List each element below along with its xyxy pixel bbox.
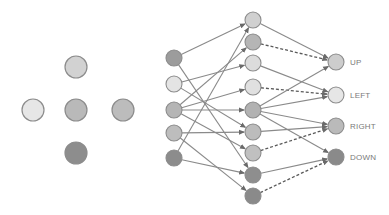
hidden-node — [245, 167, 261, 183]
hidden-node — [245, 79, 261, 95]
input-hidden-edge — [181, 88, 245, 127]
hidden-output-edge — [260, 24, 328, 58]
hidden-output-edge — [261, 97, 327, 109]
direction-cluster — [22, 56, 134, 164]
hidden-node — [245, 102, 261, 118]
cluster-node-c-top — [65, 56, 87, 78]
dashed-hidden-output-edge — [261, 44, 327, 60]
input-hidden-edge — [182, 160, 244, 173]
input-node — [166, 76, 182, 92]
hidden-node — [245, 145, 261, 161]
input-hidden-edge — [181, 114, 245, 149]
hidden-output-edge — [260, 66, 327, 92]
input-node — [166, 150, 182, 166]
hidden-output-edge — [261, 112, 327, 125]
network-nodes — [166, 12, 344, 204]
hidden-node — [245, 124, 261, 140]
hidden-node — [245, 12, 261, 28]
input-node — [166, 102, 182, 118]
dashed-hidden-output-edge — [261, 88, 327, 94]
hidden-node — [245, 188, 261, 204]
input-node — [166, 50, 182, 66]
input-hidden-edge — [182, 132, 244, 133]
cluster-node-c-center — [65, 99, 87, 121]
output-label-left: LEFT — [350, 91, 370, 100]
output-node — [328, 87, 344, 103]
cluster-node-c-left — [22, 99, 44, 121]
cluster-node-c-right — [112, 99, 134, 121]
hidden-node — [245, 55, 261, 71]
output-node — [328, 149, 344, 165]
output-label-right: RIGHT — [350, 122, 376, 131]
hidden-node — [245, 34, 261, 50]
cluster-node-c-bottom — [65, 142, 87, 164]
input-hidden-edge — [180, 48, 246, 105]
dashed-hidden-output-edge — [261, 129, 328, 151]
neural-network-diagram: UPLEFTRIGHTDOWN — [0, 0, 389, 215]
output-node — [328, 54, 344, 70]
hidden-output-edge — [260, 67, 328, 106]
input-hidden-edge — [182, 90, 245, 108]
output-node — [328, 118, 344, 134]
hidden-output-edge — [261, 127, 327, 132]
input-hidden-edge — [180, 138, 246, 190]
output-label-up: UP — [350, 58, 362, 67]
input-hidden-edge — [182, 65, 245, 82]
output-label-down: DOWN — [350, 153, 376, 162]
output-labels: UPLEFTRIGHTDOWN — [350, 58, 376, 162]
input-node — [166, 125, 182, 141]
